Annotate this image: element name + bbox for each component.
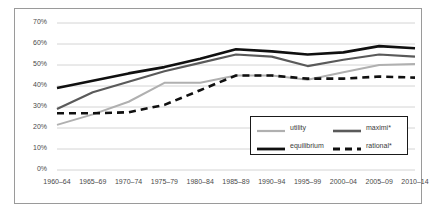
- chart-legend: utility maximi* equilibrium: [250, 116, 408, 155]
- x-tick-label: 1965–69: [73, 178, 113, 185]
- legend-row-bottom: equilibrium rational*: [251, 136, 407, 154]
- x-tick-label: 1995–99: [288, 178, 328, 185]
- series-line-maximi: [57, 55, 415, 110]
- y-tick-label: 40%: [21, 81, 47, 88]
- legend-entry-maximi[interactable]: maximi*: [330, 118, 407, 136]
- chart-plot-frame: 0%10%20%30%40%50%60%70% 1960–641965–6919…: [14, 8, 422, 204]
- x-tick-label: 2005–09: [359, 178, 399, 185]
- legend-swatch-equilibrium: [256, 140, 286, 150]
- y-tick-label: 30%: [21, 102, 47, 109]
- series-line-equilibrium: [57, 46, 415, 88]
- legend-label-utility: utility: [290, 124, 306, 131]
- chart-figure: 0%10%20%30%40%50%60%70% 1960–641965–6919…: [0, 0, 437, 219]
- legend-label-maximi: maximi*: [366, 124, 391, 131]
- y-tick-label: 0%: [21, 165, 47, 172]
- legend-swatch-utility: [256, 122, 286, 132]
- x-tick-label: 2010–14: [395, 178, 435, 185]
- legend-label-equilibrium: equilibrium: [290, 142, 324, 149]
- legend-swatch-rational: [332, 140, 362, 150]
- x-tick-label: 1960–64: [37, 178, 77, 185]
- legend-entry-rational[interactable]: rational*: [330, 136, 407, 154]
- x-tick-label: 1970–74: [109, 178, 149, 185]
- legend-swatch-maximi: [332, 122, 362, 132]
- legend-row-top: utility maximi*: [251, 118, 407, 136]
- legend-entry-utility[interactable]: utility: [251, 118, 330, 136]
- x-tick-label: 1975–79: [144, 178, 184, 185]
- series-lines-group: [57, 46, 415, 125]
- y-tick-label: 50%: [21, 60, 47, 67]
- y-tick-label: 60%: [21, 39, 47, 46]
- y-tick-label: 70%: [21, 18, 47, 25]
- y-tick-label: 20%: [21, 123, 47, 130]
- line-chart-canvas: [15, 9, 421, 203]
- legend-label-rational: rational*: [366, 142, 392, 149]
- x-tick-label: 1985–89: [216, 178, 256, 185]
- x-tick-label: 1990–94: [252, 178, 292, 185]
- x-tick-label: 2000–04: [323, 178, 363, 185]
- legend-entry-equilibrium[interactable]: equilibrium: [251, 136, 330, 154]
- x-tick-label: 1980–84: [180, 178, 220, 185]
- y-tick-label: 10%: [21, 144, 47, 151]
